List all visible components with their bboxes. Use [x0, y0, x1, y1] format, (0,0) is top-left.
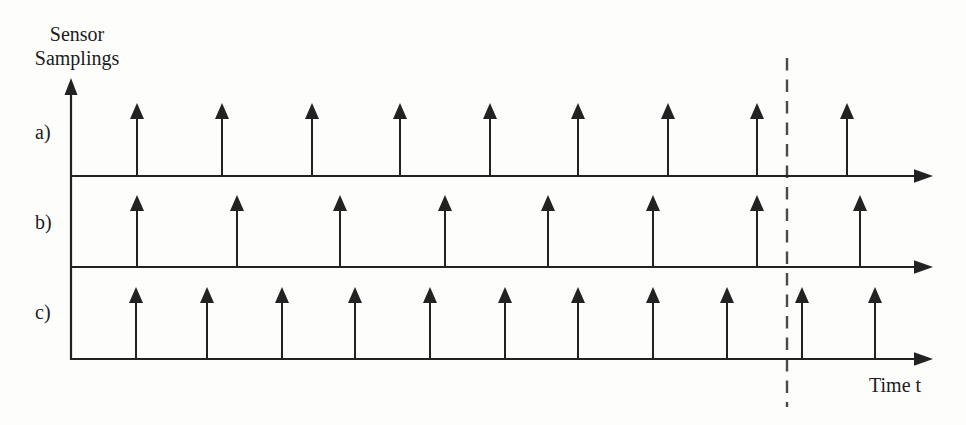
sample-arrow-head [661, 103, 675, 119]
sample-arrow-head [423, 287, 437, 303]
time-axis-arrowhead-row-1 [914, 260, 933, 274]
sample-arrow-head [130, 195, 144, 211]
sample-arrow-head [720, 287, 734, 303]
figure-canvas: Sensor Samplings a) b) c) Time t [0, 0, 966, 425]
y-axis-arrowhead [65, 78, 78, 95]
sample-arrow-head [129, 287, 143, 303]
sample-arrow-head [348, 287, 362, 303]
y-axis-label-line2: Samplings [24, 46, 130, 70]
sample-arrow-head [215, 103, 229, 119]
sample-arrow-head [305, 103, 319, 119]
sample-arrow-head [498, 287, 512, 303]
sample-arrow-head [571, 103, 585, 119]
sample-arrow-head [795, 287, 809, 303]
sample-arrow-head [840, 103, 854, 119]
row-label-b: b) [35, 210, 52, 234]
sample-arrow-head [646, 195, 660, 211]
sample-arrow-head [541, 195, 555, 211]
y-axis-label: Sensor Samplings [24, 22, 130, 70]
sample-arrow-head [275, 287, 289, 303]
row-label-a: a) [35, 120, 51, 144]
sample-arrow-head [571, 287, 585, 303]
sample-arrow-head [483, 103, 497, 119]
row-label-c: c) [35, 300, 51, 324]
y-axis-label-line1: Sensor [24, 22, 130, 46]
sample-arrow-head [750, 195, 764, 211]
sample-arrow-head [853, 195, 867, 211]
sampling-diagram [0, 0, 966, 425]
time-axis-arrowhead-row-2 [914, 352, 933, 366]
sample-arrow-head [130, 103, 144, 119]
sample-arrow-head [438, 195, 452, 211]
sample-arrow-head [750, 103, 764, 119]
sample-arrow-head [333, 195, 347, 211]
x-axis-label: Time t [869, 373, 921, 397]
sample-arrow-head [230, 195, 244, 211]
sample-arrow-head [393, 103, 407, 119]
sample-arrow-head [200, 287, 214, 303]
sample-arrow-head [868, 287, 882, 303]
sample-arrow-head [646, 287, 660, 303]
time-axis-arrowhead-row-0 [914, 169, 933, 183]
